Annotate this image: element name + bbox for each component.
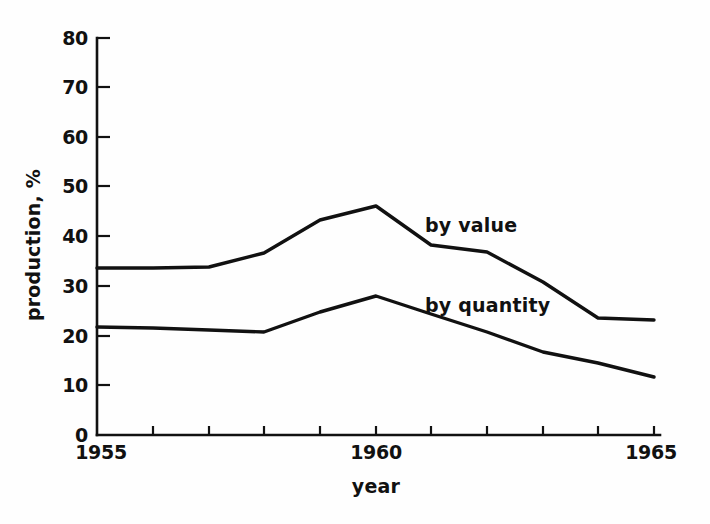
chart-figure: 80 70 60 50 40 30 20 10 0 1955 1960 1965… xyxy=(0,0,710,524)
x-tick-marks xyxy=(153,426,654,435)
y-tick-label-80: 80 xyxy=(62,27,88,49)
y-tick-marks xyxy=(97,38,110,385)
y-tick-label-40: 40 xyxy=(62,225,88,247)
y-tick-label-70: 70 xyxy=(62,76,88,98)
x-tick-label-1960: 1960 xyxy=(350,441,402,463)
series-line-by-quantity xyxy=(97,296,654,377)
axes-group xyxy=(97,38,660,435)
series-label-by-value: by value xyxy=(425,214,517,236)
line-chart: 80 70 60 50 40 30 20 10 0 1955 1960 1965… xyxy=(0,0,710,524)
y-tick-labels: 80 70 60 50 40 30 20 10 0 xyxy=(62,27,88,446)
x-tick-labels: 1955 1960 1965 xyxy=(75,441,677,463)
x-tick-label-1965: 1965 xyxy=(625,441,677,463)
y-axis-title: production, % xyxy=(22,169,44,321)
y-tick-label-50: 50 xyxy=(62,175,88,197)
y-tick-label-60: 60 xyxy=(62,126,88,148)
series-line-by-value xyxy=(97,206,654,320)
y-tick-label-20: 20 xyxy=(62,325,88,347)
y-tick-label-10: 10 xyxy=(62,374,88,396)
series-label-by-quantity: by quantity xyxy=(425,294,551,316)
x-tick-label-1955: 1955 xyxy=(75,441,127,463)
x-axis-title: year xyxy=(352,475,401,497)
y-tick-label-30: 30 xyxy=(62,275,88,297)
